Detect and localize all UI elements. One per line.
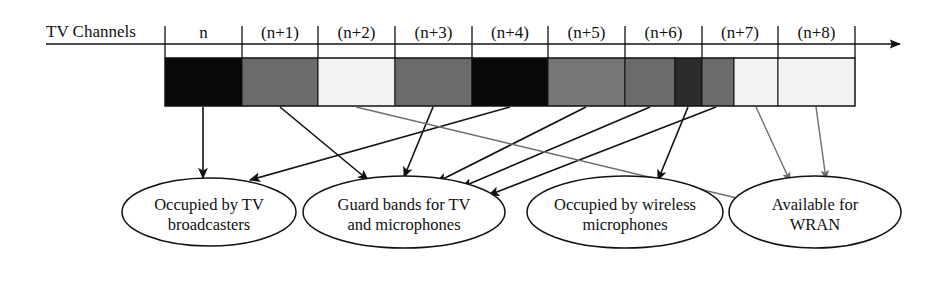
channel-label-n7: (n+7)	[721, 23, 759, 42]
diagram-canvas: TV Channels n(n+1)(n+2)(n+3)(n+4)(n+5)(n…	[0, 0, 948, 282]
spectrum-segment-8	[702, 58, 734, 106]
connector-n7b-to-wran	[756, 107, 790, 181]
connector-n1-to-guard	[280, 107, 368, 180]
channel-label-n: n	[199, 23, 208, 42]
channel-label-n6: (n+6)	[645, 23, 683, 42]
category-label-line1-occupied-by-tv-broadcasters: Occupied by TV	[154, 195, 264, 214]
connector-mic-to-wireless	[658, 107, 688, 180]
category-label-line2-available-for-wran: WRAN	[790, 215, 840, 234]
spectrum-segment-4	[472, 58, 548, 106]
axis-caption: TV Channels	[46, 22, 136, 41]
channel-labels: n(n+1)(n+2)(n+3)(n+4)(n+5)(n+6)(n+7)(n+8…	[199, 23, 835, 42]
channel-label-n8: (n+8)	[798, 23, 836, 42]
connector-n3-to-guard	[404, 107, 433, 177]
spectrum-segment-1	[242, 58, 318, 106]
spectrum-segment-10	[778, 58, 855, 106]
channel-label-n4: (n+4)	[491, 23, 529, 42]
category-label-line2-occupied-by-tv-broadcasters: broadcasters	[168, 215, 250, 234]
category-label-line1-available-for-wran: Available for	[772, 195, 859, 214]
spectrum-segment-3	[395, 58, 472, 106]
channel-label-n3: (n+3)	[415, 23, 453, 42]
spectrum-bar	[165, 58, 855, 106]
spectrum-segment-7	[675, 58, 702, 106]
spectrum-segment-6	[625, 58, 675, 106]
connector-n4-to-tv	[250, 107, 510, 180]
spectrum-segment-2	[318, 58, 395, 106]
channel-label-n1: (n+1)	[261, 23, 299, 42]
connector-n8-to-wran	[816, 107, 826, 179]
category-label-line2-occupied-by-wireless-microphones: microphones	[582, 215, 667, 234]
channel-label-n5: (n+5)	[568, 23, 606, 42]
connector-n6-to-guard	[462, 107, 650, 187]
spectrum-allocation-diagram: TV Channels n(n+1)(n+2)(n+3)(n+4)(n+5)(n…	[0, 0, 948, 282]
spectrum-segment-9	[734, 58, 778, 106]
spectrum-segment-0	[165, 58, 242, 106]
category-label-line1-occupied-by-wireless-microphones: Occupied by wireless	[554, 195, 696, 214]
connector-arrows	[203, 107, 826, 200]
channel-label-n2: (n+2)	[338, 23, 376, 42]
spectrum-segment-5	[548, 58, 625, 106]
category-label-line1-guard-bands-for-tv-and-microphones: Guard bands for TV	[337, 195, 470, 214]
category-label-line2-guard-bands-for-tv-and-microphones: and microphones	[347, 215, 460, 234]
